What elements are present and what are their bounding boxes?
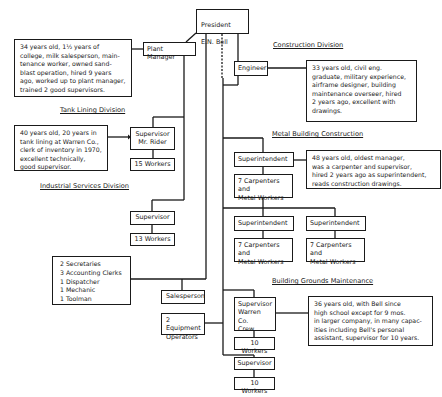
- industrial-services-workers: 13 Workers: [130, 233, 175, 246]
- engineer-description: 33 years old, civil eng. graduate, milit…: [306, 60, 417, 122]
- carpenters-crew-3: 7 Carpenters and Metal Workers: [306, 238, 365, 262]
- building-grounds-workers-1: 10 Workers: [234, 337, 275, 350]
- president-name: E.N. Bell: [201, 38, 244, 46]
- supervisor-warren-crew: Supervisor Warren Co. Crew: [234, 297, 276, 331]
- plant-manager-box: Plant Manager: [143, 42, 196, 56]
- salesperson-box: Salesperson: [161, 290, 205, 304]
- building-grounds-supervisor: Supervisor: [234, 357, 275, 370]
- industrial-services-supervisor: Supervisor: [130, 211, 175, 225]
- tank-lining-division-label: Tank Lining Division: [60, 106, 125, 114]
- superintendent-description: 48 years old, oldest manager, was a carp…: [306, 150, 441, 189]
- industrial-services-division-label: Industrial Services Division: [40, 182, 129, 190]
- carpenters-crew-1: 7 Carpenters and Metal Workers: [234, 174, 293, 198]
- metal-building-division-label: Metal Building Construction: [272, 130, 363, 138]
- superintendent-1: Superintendent: [234, 152, 294, 167]
- office-staff-box: 2 Secretaries 3 Accounting Clerks 1 Disp…: [52, 256, 131, 305]
- tank-lining-supervisor: Supervisor Mr. Rider: [130, 127, 175, 150]
- construction-division-label: Construction Division: [273, 41, 343, 49]
- engineer-box: Engineer: [234, 61, 268, 76]
- equipment-operators-box: 2 Equipment Operators: [161, 313, 205, 335]
- tank-lining-workers: 15 Workers: [130, 158, 175, 171]
- superintendent-2: Superintendent: [234, 216, 294, 231]
- building-grounds-workers-2: 10 Workers: [234, 377, 275, 390]
- warren-supervisor-description: 36 years old, with Bell since high schoo…: [308, 296, 433, 346]
- tank-lining-description: 40 years old, 20 years in tank lining at…: [14, 125, 108, 171]
- building-grounds-division-label: Building Grounds Maintenance: [272, 277, 373, 285]
- superintendent-3: Superintendent: [306, 216, 366, 231]
- president-box: President E.N. Bell: [196, 9, 249, 34]
- president-title: President: [201, 21, 244, 29]
- plant-manager-description: 34 years old, 1½ years of college, milk …: [14, 39, 132, 97]
- carpenters-crew-2: 7 Carpenters and Metal Workers: [234, 238, 293, 262]
